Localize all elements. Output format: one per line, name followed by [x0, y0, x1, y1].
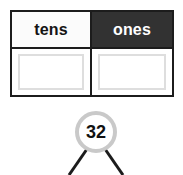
- place-value-header-cell-tens: tens: [12, 12, 92, 47]
- tens-answer-box[interactable]: [18, 54, 84, 90]
- place-value-body-row: [12, 49, 172, 95]
- place-value-body-cell-tens: [12, 49, 92, 95]
- place-value-header-row: tens ones: [12, 12, 172, 49]
- ones-header-label: ones: [113, 22, 151, 38]
- place-value-header-cell-ones: ones: [92, 12, 172, 47]
- number-bond-branch-left-line: [69, 149, 87, 175]
- place-value-body-cell-ones: [92, 49, 172, 95]
- number-bond-diagram: 32: [0, 104, 183, 175]
- worksheet-page: tens ones 32: [0, 0, 183, 175]
- number-bond-total-value: 32: [86, 122, 106, 142]
- place-value-table: tens ones: [10, 10, 174, 97]
- number-bond-svg: 32: [0, 104, 183, 175]
- tens-header-label: tens: [34, 22, 68, 38]
- number-bond-branch-right-line: [105, 149, 123, 175]
- ones-answer-box[interactable]: [98, 54, 166, 90]
